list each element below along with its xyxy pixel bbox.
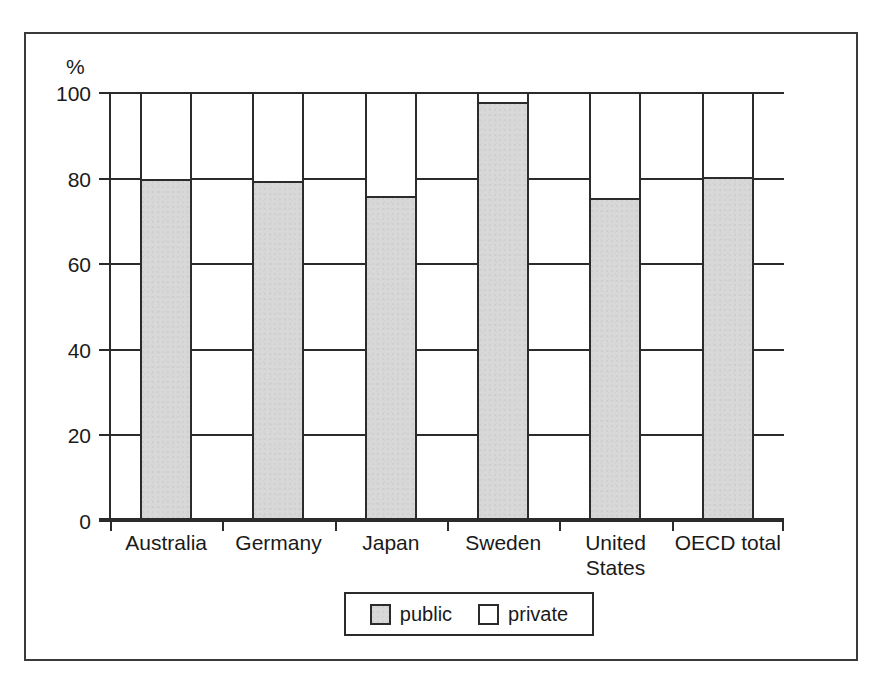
y-axis-unit-label: % [66, 56, 85, 77]
bar-column[interactable] [672, 92, 784, 520]
x-axis-category-labels: AustraliaGermanyJapanSwedenUnitedStatesO… [110, 530, 784, 580]
bar-public-segment[interactable] [254, 181, 302, 518]
x-axis-category-label: Germany [222, 530, 334, 580]
bar-column[interactable] [559, 92, 671, 520]
y-axis-tick: 80 [99, 178, 110, 180]
bar-column[interactable] [110, 92, 222, 520]
bar-private-segment[interactable] [702, 92, 754, 520]
legend-label-public: public [400, 604, 452, 624]
bar-public-segment[interactable] [142, 179, 190, 518]
y-axis-tick-label: 100 [56, 82, 91, 106]
bar-private-segment[interactable] [477, 92, 529, 520]
y-axis-tick: 100 [99, 92, 110, 94]
bar-public-segment[interactable] [367, 196, 415, 518]
plot-area-wrapper: 100806040200 [110, 92, 784, 520]
plot-area: 100806040200 [110, 92, 784, 520]
bar-private-segment[interactable] [140, 92, 192, 520]
x-axis-category-label: OECD total [672, 530, 784, 580]
bar-private-segment[interactable] [365, 92, 417, 520]
y-axis-tick: 40 [99, 349, 110, 351]
x-axis-category-label: Australia [110, 530, 222, 580]
x-axis-category-label: Sweden [447, 530, 559, 580]
bar-column-group [110, 92, 784, 520]
bar-column[interactable] [447, 92, 559, 520]
y-axis-tick-label: 0 [79, 510, 91, 534]
y-axis-tick: 60 [99, 263, 110, 265]
figure-frame: % 100806040200 AustraliaGermanyJapanSwed… [24, 32, 858, 661]
y-axis-tick-label: 60 [68, 253, 91, 277]
legend-swatch-public-icon [370, 604, 391, 625]
legend-entry-public: public [370, 604, 452, 625]
legend-entry-private: private [478, 604, 568, 625]
y-axis-tick-label: 80 [68, 168, 91, 192]
x-axis-category-label: UnitedStates [559, 530, 671, 580]
bar-column[interactable] [222, 92, 334, 520]
x-axis-category-label: Japan [335, 530, 447, 580]
y-axis-tick: 0 [99, 520, 110, 522]
y-axis-tick-label: 40 [68, 339, 91, 363]
chart-legend: public private [344, 592, 594, 636]
bar-private-segment[interactable] [252, 92, 304, 520]
legend-swatch-private-icon [478, 604, 499, 625]
y-axis-tick-label: 20 [68, 424, 91, 448]
y-axis-tick: 20 [99, 434, 110, 436]
bar-private-segment[interactable] [589, 92, 641, 520]
bar-public-segment[interactable] [704, 177, 752, 518]
legend-label-private: private [508, 604, 568, 624]
bar-public-segment[interactable] [591, 198, 639, 518]
bar-column[interactable] [335, 92, 447, 520]
bar-public-segment[interactable] [479, 102, 527, 518]
